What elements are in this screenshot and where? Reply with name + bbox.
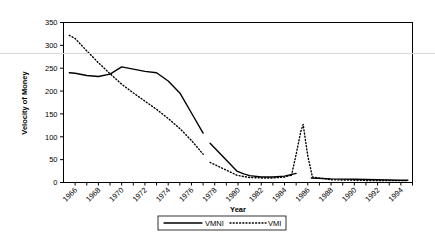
x-tick-label: 1966: [61, 186, 79, 204]
x-axis-title: Year: [230, 205, 246, 214]
legend-label-vmi: VMI: [268, 219, 281, 228]
y-axis-title: Velocity of Money: [20, 71, 29, 135]
x-axis-ticks: 1966196819701972197419761978198019821984…: [61, 183, 413, 204]
x-tick-label: 1968: [84, 186, 102, 204]
x-tick-label: 1990: [340, 186, 358, 204]
y-tick-label: 0: [53, 178, 57, 187]
x-tick-label: 1974: [154, 186, 172, 204]
plot-border: [64, 23, 413, 183]
series-line-vmni: [69, 67, 203, 133]
y-tick-label: 250: [45, 64, 58, 73]
x-tick-label: 1978: [200, 186, 218, 204]
x-tick-label: 1986: [294, 186, 312, 204]
y-axis-ticks: 050100150200250300350: [45, 18, 64, 187]
chart-canvas: 050100150200250300350 196619681970197219…: [0, 0, 435, 238]
x-tick-label: 1976: [177, 186, 195, 204]
x-tick-label: 1988: [317, 186, 335, 204]
stray-horizontal-rule: [0, 53, 435, 54]
x-tick-label: 1970: [107, 186, 125, 204]
series-line-vmi: [292, 124, 313, 177]
x-tick-label: 1994: [387, 186, 405, 204]
y-tick-label: 350: [45, 18, 58, 27]
x-tick-label: 1972: [131, 186, 149, 204]
chart-legend: VMNIVMI: [158, 216, 286, 230]
legend-label-vmni: VMNI: [205, 219, 224, 228]
x-axis-title-label: Year: [230, 205, 246, 214]
y-tick-label: 50: [49, 155, 57, 164]
series-line-vmni: [210, 143, 296, 177]
y-tick-label: 200: [45, 87, 58, 96]
x-tick-label: 1984: [270, 186, 288, 204]
x-tick-label: 1982: [247, 186, 265, 204]
series-lines: [69, 35, 408, 180]
plot-frame: [64, 23, 413, 183]
x-tick-label: 1992: [363, 186, 381, 204]
velocity-of-money-chart: 050100150200250300350 196619681970197219…: [0, 0, 435, 238]
y-axis-title-label: Velocity of Money: [20, 71, 29, 135]
x-tick-label: 1980: [224, 186, 242, 204]
y-tick-label: 100: [45, 133, 58, 142]
y-tick-label: 300: [45, 41, 58, 50]
y-tick-label: 150: [45, 110, 58, 119]
